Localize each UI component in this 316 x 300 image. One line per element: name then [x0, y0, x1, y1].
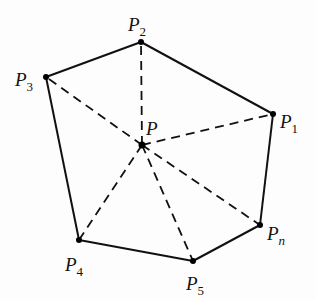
edge-P1-Pn	[260, 114, 273, 225]
label-Pn: Pn	[266, 223, 285, 248]
point-P5	[190, 258, 196, 264]
label-P3: P3	[14, 69, 33, 94]
edge-Pn-P5	[193, 225, 260, 261]
edge-P4-P3	[46, 77, 79, 240]
label-P5: P5	[185, 273, 204, 298]
label-P1: P1	[279, 111, 298, 136]
polygon-edges	[46, 42, 273, 261]
edge-P5-P4	[79, 240, 193, 261]
point-P4	[76, 237, 82, 243]
label-P2: P2	[127, 14, 146, 39]
center-spokes	[46, 42, 273, 261]
point-Pn	[257, 222, 263, 228]
point-P3	[43, 74, 49, 80]
edge-P2-P1	[141, 42, 273, 114]
edge-P3-P2	[46, 42, 141, 77]
spoke-P-P3	[46, 77, 142, 145]
point-P1	[270, 111, 276, 117]
vertex-labels: P2 P1 Pn P5 P4 P3 P	[14, 14, 298, 298]
spoke-P-P2	[141, 42, 142, 145]
label-P: P	[145, 118, 158, 139]
point-P	[139, 142, 146, 149]
polygon-diagram: P2 P1 Pn P5 P4 P3 P	[0, 0, 316, 300]
point-P2	[138, 39, 144, 45]
spoke-P-P4	[79, 145, 142, 240]
spoke-P-Pn	[142, 145, 260, 225]
spoke-P-P1	[142, 114, 273, 145]
label-P4: P4	[64, 254, 84, 279]
